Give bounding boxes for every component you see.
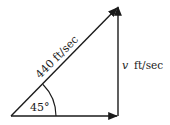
angle-label: 45° [30, 101, 50, 114]
hypotenuse-label: 440 ft/sec [33, 33, 81, 81]
vertical-label-var: v [122, 59, 129, 72]
vertical-label-unit: ft/sec [134, 59, 163, 71]
vector-triangle-diagram: 45° 440 ft/sec v ft/sec [0, 0, 170, 125]
hypotenuse-vector [11, 8, 117, 116]
